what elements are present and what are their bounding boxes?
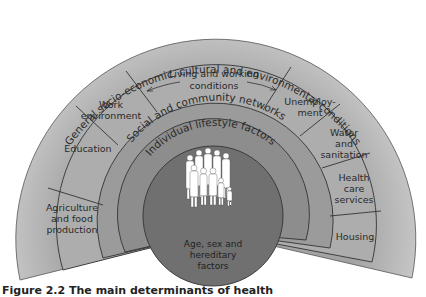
living-working-label-line1: Living and working <box>169 68 259 79</box>
svg-text:care: care <box>344 183 365 194</box>
svg-text:Health: Health <box>338 172 369 183</box>
sector-education: Education <box>64 143 111 154</box>
svg-text:Agriculture: Agriculture <box>46 202 98 213</box>
svg-text:services: services <box>335 194 374 205</box>
sector-agriculture: Agriculture and food production <box>46 202 98 235</box>
svg-text:and: and <box>335 138 353 149</box>
svg-text:and food: and food <box>51 213 93 224</box>
svg-text:Unemploy-: Unemploy- <box>284 96 335 107</box>
svg-text:Water: Water <box>330 127 358 138</box>
svg-text:Education: Education <box>64 143 111 154</box>
svg-text:environment: environment <box>81 110 142 121</box>
svg-text:Housing: Housing <box>336 231 375 242</box>
figure-caption: Figure 2.2 The main determinants of heal… <box>2 284 273 297</box>
core-label-line3: factors <box>197 261 228 271</box>
core-label-line1: Age, sex and <box>184 239 242 249</box>
svg-text:production: production <box>46 224 97 235</box>
core-label-line2: hereditary <box>190 250 237 260</box>
svg-text:Work: Work <box>99 99 124 110</box>
svg-text:sanitation: sanitation <box>320 149 367 160</box>
living-working-label-line2: conditions <box>190 80 239 91</box>
svg-text:ment: ment <box>298 107 323 118</box>
sector-housing: Housing <box>336 231 375 242</box>
